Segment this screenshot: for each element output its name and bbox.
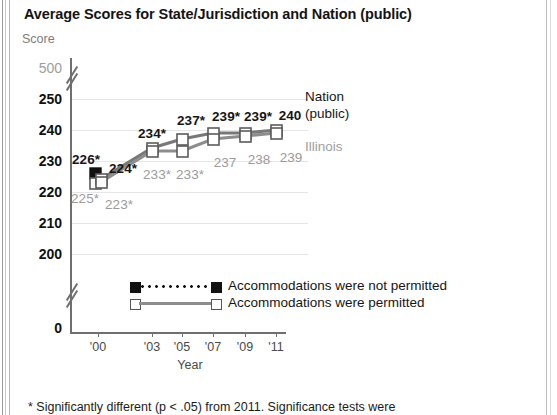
open-square-icon: [211, 299, 222, 310]
data-point-illinois-03: [147, 146, 158, 157]
series-label-illinois: Illinois: [305, 140, 343, 154]
solid-line-icon: [139, 302, 213, 305]
data-label-nation-07: 239*: [212, 109, 240, 124]
data-label-illinois-09: 238: [248, 152, 271, 167]
plot-area: 500 250 240 230 220 210 200 0 '00 '03 '0…: [0, 0, 557, 415]
data-label-nation-09: 239*: [244, 109, 272, 124]
data-label-nation-00b: 224*: [109, 161, 137, 176]
dotted-line-icon: [139, 285, 213, 288]
series-label-nation-line1: Nation: [305, 90, 349, 104]
data-label-illinois-00b: 223*: [105, 197, 133, 212]
data-label-illinois-05: 233*: [176, 167, 204, 182]
legend-item-permitted: Accommodations were permitted: [130, 294, 447, 311]
legend-key-dotted-filled-square: [130, 279, 222, 293]
data-label-illinois-00: 225*: [71, 191, 99, 206]
data-point-illinois-00: [96, 177, 107, 188]
chart-figure: Average Scores for State/Jurisdiction an…: [0, 0, 557, 415]
legend-label-not-permitted: Accommodations were not permitted: [228, 278, 447, 293]
data-label-illinois-07: 237: [214, 155, 237, 170]
footnote: * Significantly different (p < .05) from…: [28, 400, 395, 414]
filled-square-icon: [211, 282, 222, 293]
data-point-illinois-09: [240, 131, 251, 142]
data-point-nation-05: [177, 134, 188, 145]
data-label-illinois-03: 233*: [143, 167, 171, 182]
legend-key-solid-open-square: [130, 296, 222, 310]
series-label-nation: Nation (public): [305, 90, 349, 120]
data-label-nation-05: 237*: [177, 113, 205, 128]
chart-legend: Accommodations were not permitted Accomm…: [130, 277, 447, 311]
data-point-illinois-05: [177, 146, 188, 157]
series-label-nation-line2: (public): [305, 107, 349, 121]
series-layer: [0, 0, 557, 415]
legend-item-not-permitted: Accommodations were not permitted: [130, 277, 447, 294]
data-point-illinois-07: [208, 134, 219, 145]
data-label-illinois-11: 239: [280, 150, 303, 165]
legend-label-permitted: Accommodations were permitted: [228, 295, 425, 310]
data-point-illinois-11: [271, 128, 282, 139]
data-label-nation-03: 234*: [138, 126, 166, 141]
data-label-nation-00: 226*: [72, 152, 100, 167]
data-label-nation-11: 240: [279, 108, 302, 123]
